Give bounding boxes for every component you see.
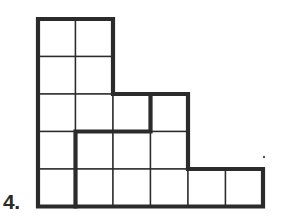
grid-cell [113, 132, 151, 170]
grid-cell [38, 94, 76, 132]
grid-cell [38, 19, 76, 57]
grid-figure [0, 0, 286, 222]
stray-dot-mark [263, 156, 265, 158]
problem-number-label: 4. [3, 190, 20, 214]
grid-cell [76, 132, 114, 170]
grid-cell [226, 169, 264, 207]
grid-cell [151, 169, 189, 207]
grid-cell [76, 57, 114, 95]
grid-cell [76, 94, 114, 132]
grid-cell [151, 132, 189, 170]
grid-cell [113, 169, 151, 207]
grid-cell [151, 94, 189, 132]
grid-cell [38, 57, 76, 95]
grid-cell [38, 169, 76, 207]
grid-cell [76, 19, 114, 57]
grid-cell [76, 169, 114, 207]
grid-cell [113, 94, 151, 132]
grid-cell [188, 169, 226, 207]
grid-cell [38, 132, 76, 170]
